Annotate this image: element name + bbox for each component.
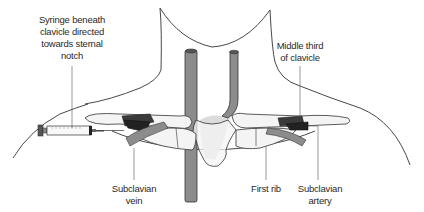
label-first-rib-line-1: First rib [244, 183, 288, 195]
manubrium [193, 120, 236, 166]
label-syringe: Syringe beneath clavicle directed toward… [30, 14, 114, 62]
label-subclavian-vein-line-1: Subclavian [104, 183, 164, 195]
syringe-icon [38, 125, 124, 136]
label-syringe-line-2: clavicle directed [30, 26, 114, 38]
label-middle-third-clavicle: Middle third of clavicle [270, 40, 330, 64]
label-subclavian-artery-line-1: Subclavian [290, 183, 350, 195]
label-subclavian-vein-line-2: vein [104, 195, 164, 207]
label-first-rib: First rib [244, 183, 288, 195]
label-syringe-line-1: Syringe beneath [30, 14, 114, 26]
label-subclavian-artery-line-2: artery [290, 195, 350, 207]
label-syringe-line-4: notch [30, 50, 114, 62]
label-syringe-line-3: towards sternal [30, 38, 114, 50]
label-subclavian-artery: Subclavian artery [290, 183, 350, 207]
label-middle-third-line-2: of clavicle [270, 52, 330, 64]
label-middle-third-line-1: Middle third [270, 40, 330, 52]
carotid-artery [222, 50, 239, 118]
label-subclavian-vein: Subclavian vein [104, 183, 164, 207]
